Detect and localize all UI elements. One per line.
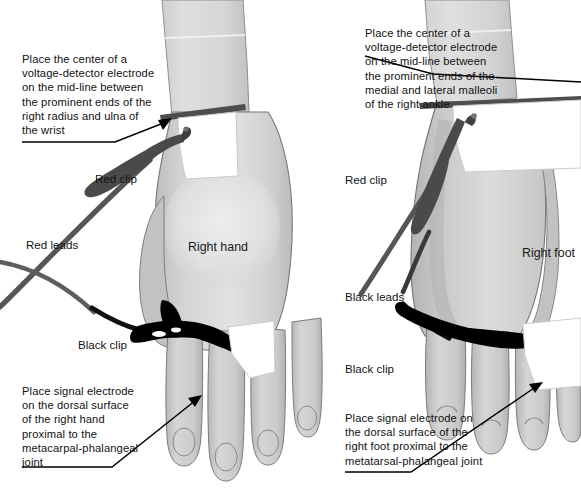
ankle-electrode-patch — [453, 100, 581, 172]
foot-illustration — [341, 0, 581, 489]
forearm-shape — [162, 0, 249, 116]
red-lead-wire-lower — [0, 262, 94, 312]
lower-leg-shape — [425, 0, 517, 104]
electrode-placement-figure: Place the center of a voltage-detector e… — [0, 0, 581, 489]
wrist-caption-leader-line — [22, 118, 172, 142]
red-lead-wire-upper — [0, 160, 150, 307]
wrist-electrode-patch — [178, 112, 238, 179]
hand-illustration — [0, 0, 341, 489]
hand-panel: Place the center of a voltage-detector e… — [0, 0, 341, 489]
foot-panel: Place the center of a voltage-detector e… — [341, 0, 581, 489]
black-lead-wire — [92, 308, 140, 330]
